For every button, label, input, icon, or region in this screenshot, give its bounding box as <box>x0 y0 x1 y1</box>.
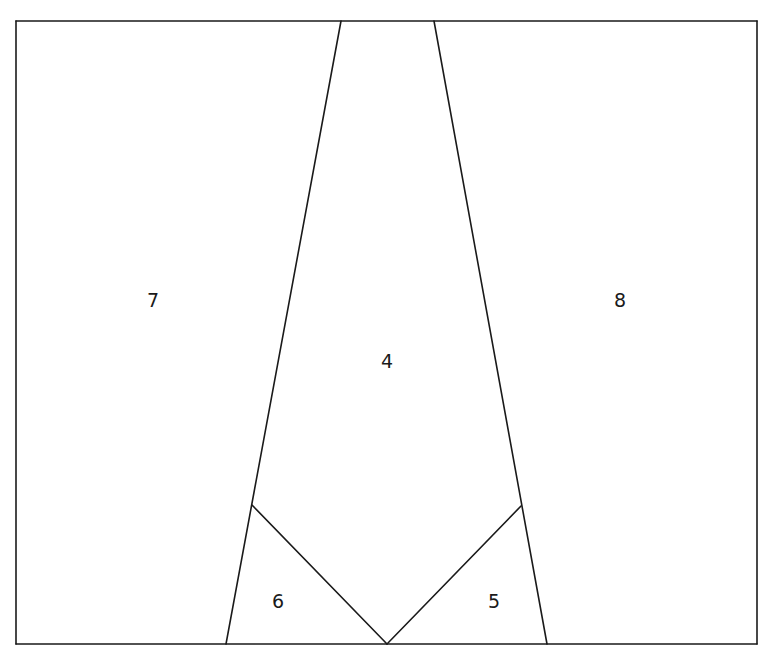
region-label-6: 6 <box>272 590 284 612</box>
region-label-group: 7 8 4 6 5 <box>147 289 626 612</box>
edge-v-left <box>252 505 387 644</box>
edge-right-diagonal <box>434 21 547 644</box>
edge-group <box>16 21 757 644</box>
edge-left-diagonal <box>226 21 341 644</box>
region-label-8: 8 <box>614 289 626 311</box>
edge-v-right <box>387 506 521 644</box>
diagram-canvas: 7 8 4 6 5 <box>0 0 773 663</box>
region-label-5: 5 <box>488 590 500 612</box>
region-label-7: 7 <box>147 289 159 311</box>
region-label-4: 4 <box>381 350 393 372</box>
diagram-svg: 7 8 4 6 5 <box>0 0 773 663</box>
